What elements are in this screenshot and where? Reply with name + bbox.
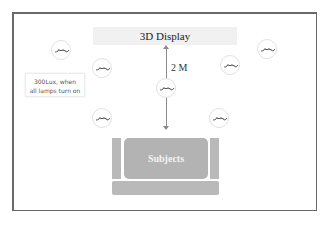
lamp-bulb-icon: [159, 84, 175, 93]
illuminance-callout: 300Lux, when all lamps turn on: [25, 73, 85, 97]
arrow-head-down-icon: [163, 126, 169, 130]
arrow-head-up-icon: [163, 45, 169, 49]
lamp-3: [257, 39, 277, 59]
callout-line-1: 300Lux, when: [26, 77, 84, 86]
distance-label: 2 M: [171, 62, 187, 73]
seat-left-armrest: [112, 138, 121, 179]
lamp-bulb-icon: [54, 46, 70, 55]
lamp-bulb-icon: [95, 64, 111, 73]
lamp-4: [220, 55, 240, 75]
subjects-label: Subjects: [148, 153, 184, 164]
display-label: 3D Display: [140, 30, 190, 42]
lamp-6: [92, 108, 112, 128]
subjects-area: Subjects: [124, 138, 208, 179]
lamp-2: [92, 58, 112, 78]
seat-base: [112, 181, 219, 195]
lamp-1: [51, 40, 71, 60]
lamp-5: [156, 78, 176, 98]
lamp-bulb-icon: [260, 45, 276, 54]
seat-right-armrest: [210, 138, 219, 179]
lamp-7: [209, 108, 229, 128]
lamp-bulb-icon: [95, 114, 111, 123]
3d-display-bar: 3D Display: [93, 27, 237, 45]
lamp-bulb-icon: [212, 114, 228, 123]
lamp-bulb-icon: [223, 61, 239, 70]
callout-line-2: all lamps turn on: [26, 86, 84, 95]
